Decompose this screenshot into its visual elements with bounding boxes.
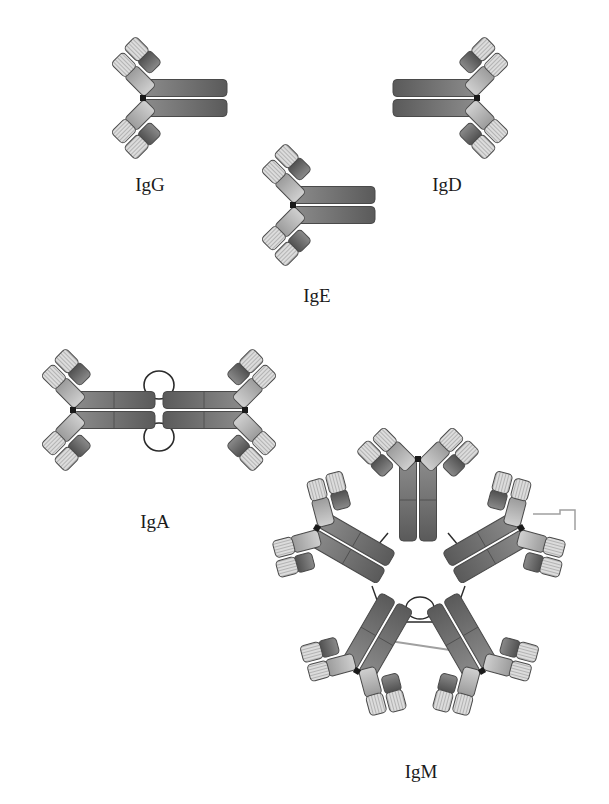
igm-unit-3 [287, 571, 451, 731]
heavy-chain-variable [508, 660, 532, 682]
igg-unit-0 [109, 36, 227, 160]
heavy-chain-variable [452, 692, 474, 716]
igm-unit-4 [257, 458, 417, 622]
fab-arm [300, 634, 357, 682]
label-ige: IgE [303, 285, 330, 307]
heavy-chain-constant [143, 100, 227, 117]
heavy-chain-constant [143, 80, 227, 97]
label-igd: IgD [432, 174, 462, 196]
igm-unit-1 [421, 458, 581, 622]
fab-arm [306, 471, 354, 528]
disulfide-bond-icon [70, 407, 76, 413]
heavy-chain-constant [393, 100, 477, 117]
disulfide-bond-icon [242, 407, 248, 413]
label-igm: IgM [405, 761, 438, 783]
igd-unit-0 [393, 36, 511, 160]
disulfide-bond-icon [140, 95, 146, 101]
light-chain-variable [491, 471, 513, 495]
fab-arm [270, 529, 327, 577]
label-iga: IgA [140, 511, 170, 533]
light-chain-variable [275, 556, 299, 578]
heavy-chain-constant [293, 207, 375, 224]
disulfide-bond-icon [474, 95, 480, 101]
antibody-igg [109, 36, 227, 160]
light-chain-variable [432, 689, 454, 713]
disulfide-bond-icon [415, 456, 421, 462]
inter-unit-connector [448, 533, 458, 545]
antibody-igd [393, 36, 511, 160]
light-chain-variable [385, 689, 407, 713]
antibody-structures [0, 0, 609, 804]
immunoglobulin-classes-diagram: IgG IgD IgE IgA IgM [0, 0, 609, 804]
antibody-units-layer [39, 36, 581, 731]
fab-arm [511, 529, 568, 577]
heavy-chain-variable [542, 536, 566, 558]
iga-unit-0 [39, 348, 155, 472]
fab-arm [484, 471, 532, 528]
heavy-chain-variable [510, 478, 532, 502]
light-chain-variable [300, 641, 324, 663]
iga-unit-1 [163, 348, 279, 472]
fab-arm [482, 634, 539, 682]
label-igg: IgG [135, 174, 165, 196]
igm-unit-0 [356, 425, 480, 541]
inter-unit-connector [372, 586, 377, 600]
antibody-iga [39, 348, 278, 472]
heavy-chain-constant [393, 80, 477, 97]
light-chain-variable [539, 556, 563, 578]
light-chain-variable [516, 641, 540, 663]
fab-arm [358, 661, 406, 718]
disulfide-bond-icon [290, 202, 296, 208]
fab-arm [432, 661, 480, 718]
heavy-chain-variable [365, 692, 387, 716]
igm-unit-2 [388, 571, 552, 731]
light-chain-variable [325, 471, 347, 495]
antibody-igm [257, 425, 581, 731]
heavy-chain-variable [272, 536, 296, 558]
heavy-chain-variable [307, 660, 331, 682]
heavy-chain-variable [306, 478, 328, 502]
heavy-chain-constant [293, 187, 375, 204]
antibody-ige [259, 143, 375, 267]
ige-unit-0 [259, 143, 375, 267]
secretory-link [533, 510, 575, 530]
